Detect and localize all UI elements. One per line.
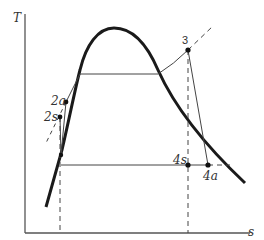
turbine-actual-line xyxy=(188,50,208,165)
superheat-curve xyxy=(158,50,188,74)
ts-diagram xyxy=(0,0,264,240)
x-axis-label: s xyxy=(248,226,254,238)
state-point-3 xyxy=(185,47,190,52)
state-point-2s xyxy=(58,115,63,120)
superheat-dashed-extension xyxy=(188,26,213,50)
label-4a: 4a xyxy=(203,170,218,182)
label-4s: 4s xyxy=(173,154,187,166)
state-point-4a xyxy=(205,162,210,167)
label-3: 3 xyxy=(182,35,188,46)
state-point-1 xyxy=(59,153,63,157)
label-2s: 2s xyxy=(44,111,58,123)
label-2a: 2a xyxy=(51,95,66,107)
y-axis-label: T xyxy=(13,12,21,24)
